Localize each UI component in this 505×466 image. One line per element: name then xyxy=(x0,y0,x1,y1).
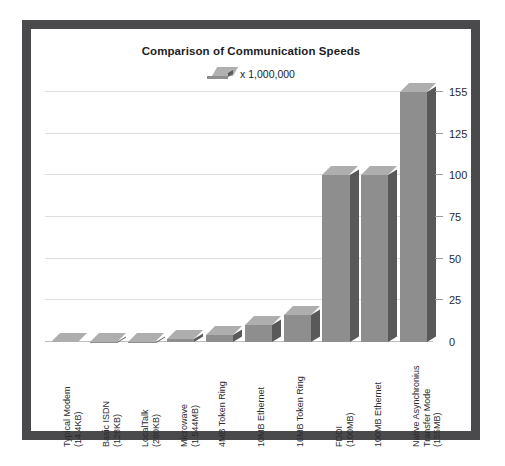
plot-inner xyxy=(45,92,433,342)
tick-mark-75 xyxy=(435,216,443,217)
x-axis-label-1: Basic ISDN(128KB) xyxy=(101,401,122,447)
tick-mark-125 xyxy=(435,133,443,134)
x-axis-label-3: Microwave(1.544MB) xyxy=(179,404,200,447)
x-axis-label-line: (14.4KB) xyxy=(73,386,84,447)
chart-title: Comparison of Communication Speeds xyxy=(31,45,471,57)
x-axis-label-6: 16MB Token Ring xyxy=(295,376,306,447)
bar-side-face xyxy=(427,86,436,342)
bar-side-face xyxy=(311,310,320,342)
bar-front-face xyxy=(167,339,194,342)
bar-5[interactable] xyxy=(245,316,272,342)
x-axis-label-line: (1.544MB) xyxy=(189,404,200,447)
x-axis-label-0: Typical Modem(14.4KB) xyxy=(62,386,83,447)
y-tick-label-50: 50 xyxy=(449,253,461,265)
bar-2[interactable] xyxy=(128,333,155,342)
bar-8[interactable] xyxy=(361,166,388,342)
bar-front-face xyxy=(245,325,272,342)
bar-3[interactable] xyxy=(167,330,194,342)
x-axis-label-4: 4MB Token Ring xyxy=(217,381,228,447)
x-axis-label-line: Basic ISDN xyxy=(101,401,112,447)
x-axis-label-7: FDDI(100MB) xyxy=(334,412,355,447)
legend-swatch-front xyxy=(207,76,228,79)
y-tick-label-0: 0 xyxy=(449,336,455,348)
bar-6[interactable] xyxy=(284,306,311,342)
x-axis-label-2: LocalTalk(280KB) xyxy=(140,409,161,447)
x-axis-labels: Typical Modem(14.4KB)Basic ISDN(128KB)Lo… xyxy=(45,347,433,452)
legend-swatch-top xyxy=(212,67,238,76)
x-axis-label-line: (100MB) xyxy=(344,412,355,447)
bar-front-face xyxy=(284,315,311,342)
x-axis-label-9: Native AsynchroniusTransfer Mode(155MB) xyxy=(411,365,443,447)
bar-side-face xyxy=(350,170,359,342)
plot-area: 0255075100125155 xyxy=(45,92,433,342)
y-tick-label-155: 155 xyxy=(449,86,467,98)
bar-top-face xyxy=(51,333,87,342)
x-axis-label-line: LocalTalk xyxy=(140,409,151,447)
tick-mark-25 xyxy=(435,299,443,300)
bar-side-face xyxy=(388,170,397,342)
legend-swatch-icon xyxy=(207,67,233,80)
chart-frame: Comparison of Communication Speeds x 1,0… xyxy=(22,20,480,440)
tick-mark-155 xyxy=(435,91,443,92)
x-axis-label-line: FDDI xyxy=(334,412,345,447)
x-axis-label-8: 100MB Ethernet xyxy=(373,382,384,447)
x-axis-label-line: Microwave xyxy=(179,404,190,447)
x-axis-label-line: 4MB Token Ring xyxy=(217,381,228,447)
y-tick-label-125: 125 xyxy=(449,128,467,140)
x-axis-label-line: (155MB) xyxy=(432,365,443,447)
bar-front-face xyxy=(400,92,427,342)
bar-0[interactable] xyxy=(51,333,78,342)
bar-1[interactable] xyxy=(90,333,117,342)
x-axis-label-line: 16MB Token Ring xyxy=(295,376,306,447)
bar-top-face xyxy=(90,333,126,342)
chart-canvas: Comparison of Communication Speeds x 1,0… xyxy=(31,29,471,431)
chart-legend: x 1,000,000 xyxy=(31,67,471,80)
x-axis-label-line: (128KB) xyxy=(112,401,123,447)
tick-mark-100 xyxy=(435,174,443,175)
x-axis-label-line: Transfer Mode xyxy=(422,365,433,447)
x-axis-label-line: Typical Modem xyxy=(62,386,73,447)
y-tick-label-100: 100 xyxy=(449,169,467,181)
bar-front-face xyxy=(322,175,349,342)
y-tick-label-75: 75 xyxy=(449,211,461,223)
bar-9[interactable] xyxy=(400,83,427,342)
x-axis-label-line: Native Asynchronius xyxy=(411,365,422,447)
x-axis-label-line: 100MB Ethernet xyxy=(373,382,384,447)
x-axis-label-5: 10MB Ethernet xyxy=(256,387,267,447)
bar-4[interactable] xyxy=(206,326,233,342)
legend-label: x 1,000,000 xyxy=(240,68,295,80)
bar-7[interactable] xyxy=(322,166,349,342)
y-tick-label-25: 25 xyxy=(449,294,461,306)
x-axis-label-line: (280KB) xyxy=(150,409,161,447)
x-axis-label-line: 10MB Ethernet xyxy=(256,387,267,447)
bar-front-face xyxy=(361,175,388,342)
tick-mark-50 xyxy=(435,258,443,259)
bar-front-face xyxy=(206,335,233,342)
bar-series xyxy=(45,92,433,342)
